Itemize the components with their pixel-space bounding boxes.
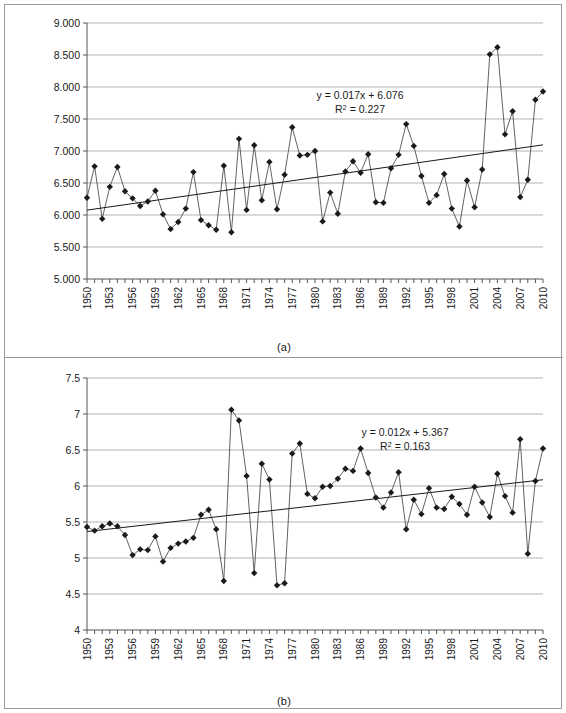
data-point-marker xyxy=(175,540,181,546)
data-point-marker xyxy=(213,526,219,532)
y-axis-tick-label: 5.500 xyxy=(54,241,80,253)
x-axis-tick-label: 1956 xyxy=(127,287,138,310)
data-point-marker xyxy=(99,523,105,529)
data-point-marker xyxy=(471,484,477,490)
chart-panel-b: 7.576.565.554.54195019531956195919621965… xyxy=(5,357,563,710)
x-axis-tick-label: 1974 xyxy=(264,638,275,661)
x-axis-tick-label: 1950 xyxy=(82,638,93,661)
x-axis-tick-label: 2001 xyxy=(469,287,480,310)
data-point-marker xyxy=(373,199,379,205)
data-point-marker xyxy=(152,533,158,539)
data-point-marker xyxy=(509,108,515,114)
x-axis-tick-label: 1965 xyxy=(196,287,207,310)
data-point-marker xyxy=(441,506,447,512)
x-axis-tick-label: 1986 xyxy=(355,287,366,310)
x-axis-tick-label: 1980 xyxy=(310,287,321,310)
x-axis-tick-label: 1968 xyxy=(218,638,229,661)
x-axis-tick-label: 1968 xyxy=(218,287,229,310)
data-point-marker xyxy=(190,535,196,541)
data-point-marker xyxy=(502,493,508,499)
data-point-marker xyxy=(289,450,295,456)
data-point-marker xyxy=(243,207,249,213)
data-point-marker xyxy=(517,436,523,442)
x-axis-tick-label: 2010 xyxy=(538,287,549,310)
data-point-marker xyxy=(418,173,424,179)
x-axis-tick-label: 1959 xyxy=(150,638,161,661)
data-point-marker xyxy=(373,494,379,500)
data-point-marker xyxy=(479,166,485,172)
data-point-marker xyxy=(99,216,105,222)
data-point-marker xyxy=(281,580,287,586)
data-point-marker xyxy=(403,526,409,532)
data-point-marker xyxy=(319,218,325,224)
y-axis-tick-label: 6.000 xyxy=(54,209,80,221)
data-point-marker xyxy=(221,163,227,169)
data-point-marker xyxy=(335,211,341,217)
y-axis-tick-label: 6.500 xyxy=(54,177,80,189)
data-point-marker xyxy=(395,469,401,475)
chart-a-svg: 9.0008.5008.0007.5007.0006.5006.0005.500… xyxy=(5,5,563,357)
y-axis-tick-label: 7.000 xyxy=(54,145,80,157)
x-axis-tick-label: 1989 xyxy=(378,287,389,310)
data-point-marker xyxy=(251,142,257,148)
data-point-marker xyxy=(274,582,280,588)
figure-border: 9.0008.5008.0007.5007.0006.5006.0005.500… xyxy=(4,4,562,709)
x-axis-tick-label: 1992 xyxy=(401,638,412,661)
x-axis-tick-label: 1977 xyxy=(287,287,298,310)
x-axis-tick-label: 1983 xyxy=(332,287,343,310)
y-axis-tick-label: 4.5 xyxy=(65,588,80,600)
data-point-marker xyxy=(494,471,500,477)
data-point-marker xyxy=(327,189,333,195)
x-axis-tick-label: 1977 xyxy=(287,638,298,661)
data-point-marker xyxy=(479,499,485,505)
x-axis-tick-label: 2004 xyxy=(492,287,503,310)
x-axis-tick-label: 1971 xyxy=(241,638,252,661)
x-axis-tick-label: 1983 xyxy=(332,638,343,661)
r-squared-label: R2 = 0.227 xyxy=(335,103,385,116)
data-point-marker xyxy=(471,204,477,210)
data-point-marker xyxy=(350,158,356,164)
data-point-marker xyxy=(228,406,234,412)
data-point-marker xyxy=(487,514,493,520)
data-point-marker xyxy=(91,163,97,169)
data-point-marker xyxy=(107,184,113,190)
x-axis-tick-label: 1962 xyxy=(173,638,184,661)
trendline-equation-label: y = 0.012x + 5.367 xyxy=(362,426,449,438)
x-axis-tick-label: 1962 xyxy=(173,287,184,310)
data-point-marker xyxy=(266,476,272,482)
x-axis-tick-label: 1995 xyxy=(424,287,435,310)
y-axis-tick-label: 5.5 xyxy=(65,516,80,528)
x-axis-tick-label: 2010 xyxy=(538,638,549,661)
data-point-marker xyxy=(190,169,196,175)
panel-label-b: (b) xyxy=(5,695,563,707)
data-point-marker xyxy=(205,507,211,513)
data-point-marker xyxy=(137,546,143,552)
x-axis-tick-label: 1974 xyxy=(264,287,275,310)
data-point-marker xyxy=(411,143,417,149)
data-point-marker xyxy=(517,194,523,200)
x-axis-tick-label: 1953 xyxy=(104,287,115,310)
figure-page: 9.0008.5008.0007.5007.0006.5006.0005.500… xyxy=(0,0,566,713)
y-axis-tick-label: 7 xyxy=(74,408,80,420)
data-point-marker xyxy=(259,460,265,466)
data-point-marker xyxy=(221,578,227,584)
data-point-marker xyxy=(274,206,280,212)
x-axis-tick-label: 1995 xyxy=(424,638,435,661)
x-axis-tick-label: 1965 xyxy=(196,638,207,661)
data-point-marker xyxy=(395,152,401,158)
trendline-equation-label: y = 0.017x + 6.076 xyxy=(317,89,404,101)
x-axis-tick-label: 2007 xyxy=(515,638,526,661)
x-axis-tick-label: 1956 xyxy=(127,638,138,661)
x-axis-tick-label: 1998 xyxy=(446,638,457,661)
chart-panel-a: 9.0008.5008.0007.5007.0006.5006.0005.500… xyxy=(5,5,563,357)
data-point-marker xyxy=(456,223,462,229)
data-point-marker xyxy=(509,509,515,515)
data-point-marker xyxy=(84,524,90,530)
y-axis-tick-label: 7.500 xyxy=(54,113,80,125)
data-point-marker xyxy=(365,470,371,476)
data-point-marker xyxy=(236,136,242,142)
x-axis-tick-label: 1971 xyxy=(241,287,252,310)
data-point-marker xyxy=(297,440,303,446)
data-point-marker xyxy=(236,417,242,423)
x-axis-tick-label: 1989 xyxy=(378,638,389,661)
